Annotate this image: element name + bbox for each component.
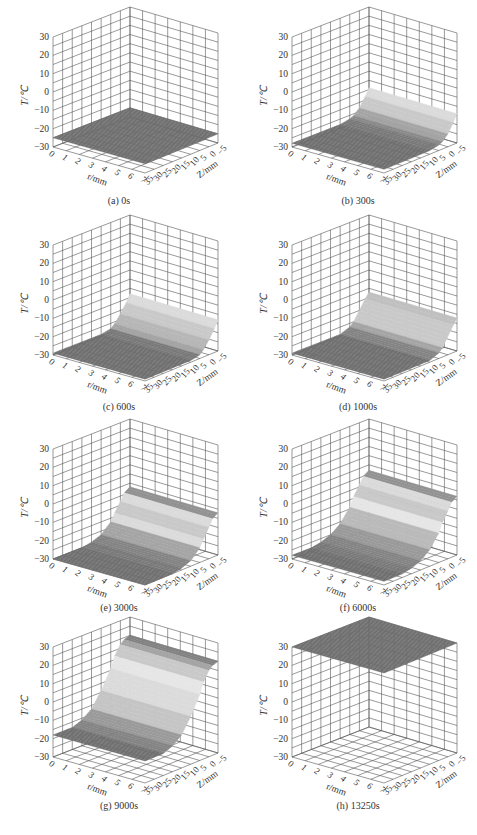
svg-text:2: 2 [312,568,322,579]
svg-text:4: 4 [100,163,110,174]
svg-text:20: 20 [40,50,50,60]
svg-text:T/℃: T/℃ [258,496,269,517]
svg-text:10: 10 [279,679,289,689]
svg-text:20: 20 [279,50,289,60]
svg-text:3: 3 [86,160,96,171]
panel-h: −30−20−100102030T/℃01234567r/mm−50510152… [239,610,477,815]
svg-text:0: 0 [283,295,288,305]
svg-text:2: 2 [312,766,322,777]
svg-text:−20: −20 [273,536,288,546]
svg-text:4: 4 [100,371,110,382]
svg-text:−30: −30 [34,554,49,564]
panel-c: −30−20−100102030T/℃01234567r/mm−50510152… [0,208,238,413]
svg-text:r/mm: r/mm [325,583,348,600]
svg-text:6: 6 [365,379,375,390]
svg-text:4: 4 [339,773,349,784]
svg-text:−30: −30 [273,350,288,360]
panel-caption-d: (d) 1000s [239,401,477,412]
svg-text:5: 5 [113,167,123,178]
svg-text:5: 5 [113,777,123,788]
panel-b: −30−20−100102030T/℃01234567r/mm−50510152… [239,0,477,205]
svg-text:20: 20 [279,258,289,268]
svg-text:−10: −10 [273,715,288,725]
svg-text:4: 4 [100,575,110,586]
svg-text:−10: −10 [34,105,49,115]
svg-text:3: 3 [325,572,335,583]
svg-text:−30: −30 [34,142,49,152]
temperature-surface [292,470,457,581]
svg-text:T/℃: T/℃ [258,292,269,313]
panel-d: −30−20−100102030T/℃01234567r/mm−50510152… [239,208,477,413]
svg-text:T/℃: T/℃ [19,84,30,105]
svg-text:0: 0 [44,87,49,97]
svg-text:2: 2 [73,364,83,375]
svg-text:20: 20 [40,462,50,472]
svg-text:1: 1 [299,564,309,575]
svg-text:T/℃: T/℃ [258,84,269,105]
svg-text:5: 5 [352,579,362,590]
svg-text:0: 0 [283,499,288,509]
svg-text:30: 30 [279,32,289,42]
svg-text:−20: −20 [34,536,49,546]
svg-text:5: 5 [352,167,362,178]
svg-text:5: 5 [113,579,123,590]
svg-text:−20: −20 [34,332,49,342]
svg-text:−30: −30 [34,350,49,360]
svg-text:−10: −10 [273,313,288,323]
svg-text:20: 20 [279,462,289,472]
svg-text:r/mm: r/mm [325,781,348,798]
svg-text:3: 3 [325,368,335,379]
svg-text:r/mm: r/mm [86,171,109,188]
svg-text:−10: −10 [34,715,49,725]
svg-text:−20: −20 [273,124,288,134]
surface-plot-g: −30−20−100102030T/℃01234567r/mm−50510152… [0,610,238,805]
panel-caption-c: (c) 600s [0,401,238,412]
svg-text:1: 1 [299,360,309,371]
svg-text:6: 6 [365,171,375,182]
svg-text:10: 10 [40,679,50,689]
svg-text:1: 1 [60,360,70,371]
svg-text:−10: −10 [273,105,288,115]
svg-text:2: 2 [73,156,83,167]
svg-text:6: 6 [126,781,136,792]
svg-text:−30: −30 [273,752,288,762]
svg-text:0: 0 [283,697,288,707]
svg-text:r/mm: r/mm [86,781,109,798]
svg-text:6: 6 [126,583,136,594]
panel-caption-b: (b) 300s [239,195,477,206]
svg-text:−30: −30 [273,554,288,564]
svg-text:5: 5 [352,375,362,386]
svg-text:10: 10 [40,277,50,287]
svg-text:30: 30 [40,32,50,42]
svg-text:20: 20 [40,258,50,268]
svg-text:−10: −10 [34,517,49,527]
svg-text:0: 0 [44,499,49,509]
svg-text:20: 20 [279,660,289,670]
svg-text:1: 1 [299,152,309,163]
svg-text:2: 2 [73,568,83,579]
svg-text:2: 2 [312,364,322,375]
svg-text:−20: −20 [273,734,288,744]
surface-plot-h: −30−20−100102030T/℃01234567r/mm−50510152… [239,610,477,805]
svg-text:10: 10 [279,277,289,287]
svg-text:T/℃: T/℃ [19,292,30,313]
svg-text:30: 30 [40,240,50,250]
surface-plot-f: −30−20−100102030T/℃01234567r/mm−50510152… [239,412,477,607]
svg-text:30: 30 [279,240,289,250]
svg-text:10: 10 [279,69,289,79]
temperature-surface [53,635,218,761]
svg-text:−20: −20 [34,124,49,134]
svg-text:r/mm: r/mm [86,583,109,600]
svg-text:r/mm: r/mm [86,379,109,396]
svg-text:T/℃: T/℃ [19,496,30,517]
svg-text:r/mm: r/mm [325,171,348,188]
panel-caption-h: (h) 13250s [239,800,477,811]
svg-text:30: 30 [40,642,50,652]
svg-text:0: 0 [283,87,288,97]
surface-plot-c: −30−20−100102030T/℃01234567r/mm−50510152… [0,208,238,403]
svg-text:3: 3 [86,368,96,379]
svg-text:10: 10 [279,481,289,491]
svg-text:4: 4 [339,371,349,382]
surface-plot-a: −30−20−100102030T/℃01234567r/mm−50510152… [0,0,238,195]
panel-g: −30−20−100102030T/℃01234567r/mm−50510152… [0,610,238,815]
